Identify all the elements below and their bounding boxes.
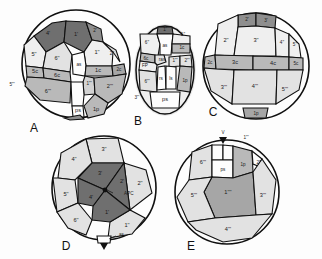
label-b-2triple: 2''': [184, 58, 189, 63]
label-e-v: V: [221, 130, 225, 135]
label-d-2dprime: 2'': [137, 180, 142, 186]
label-b-ras: ras: [159, 57, 166, 62]
label-d-4prime: 4': [89, 194, 93, 200]
label-a-2dprime: 2'': [110, 51, 114, 56]
label-c-3dprime: 3'': [253, 37, 258, 43]
label-b-as: as: [163, 43, 169, 48]
panel-e-letter: E: [187, 239, 195, 253]
label-a-6dprime: 6'': [54, 55, 59, 61]
label-a-2prime: 2': [93, 28, 97, 33]
label-e-1triple: 1''': [243, 135, 248, 140]
label-c-2dprime: 2'': [223, 37, 228, 43]
plate-e-v-right[interactable]: [223, 145, 233, 160]
label-c-5c: 5c: [294, 61, 300, 66]
label-e-6triple: 6''': [200, 159, 206, 165]
label-a-2triple: 2''': [107, 83, 113, 89]
label-c-1p: 1p: [253, 111, 259, 116]
label-a-4prime: 4': [46, 30, 50, 36]
label-e-1quad: 1'''': [224, 189, 231, 195]
apc-dot-d: [103, 188, 108, 193]
label-e-5triple: 5''': [191, 192, 197, 198]
label-c-3prime: 3': [264, 18, 268, 23]
label-d-5dprime: 5'': [63, 191, 68, 197]
panel-b: 1' 6'' as 1'' 1c 6c ras FP 1''' 2''' 6''…: [134, 24, 196, 128]
panel-c-letter: C: [209, 105, 218, 119]
label-e-1p: 1p: [240, 162, 246, 167]
panel-a-letter: A: [30, 121, 38, 135]
label-c-3triple: 3''': [221, 84, 227, 90]
label-a-1p: 1p: [93, 106, 99, 112]
label-a-1triple: 1''': [86, 81, 91, 86]
panel-a: 4' 1' 2' 5'' 6'' 1'' 2'' as 1c 2c 5c 6c …: [9, 10, 139, 135]
label-d-1prime: 1': [105, 209, 109, 215]
plate-e-v-left[interactable]: [212, 145, 223, 160]
plate-a-antapical-strip[interactable]: [71, 82, 84, 106]
label-b-6dprime: 6'': [145, 40, 149, 45]
label-d-4dprime: 4'': [71, 156, 76, 162]
label-d-2prime: 2': [120, 178, 124, 184]
label-a-5dprime: 5'': [31, 51, 36, 57]
label-b-1dprime: 1'': [181, 32, 185, 37]
label-a-6triple: 6''': [45, 88, 51, 94]
panel-b-letter: B: [134, 114, 142, 128]
label-c-4c: 4c: [270, 60, 276, 66]
label-d-1dprime: 1'': [124, 222, 129, 228]
label-b-1c: 1c: [180, 45, 186, 50]
label-b-6triple: 6''': [144, 79, 149, 84]
panel-e: V 1''' 6''' ps 1p 2''' 1'''' 5''' 3''' 4…: [175, 130, 279, 253]
figure-svg: 4' 1' 2' 5'' 6'' 1'' 2'' as 1c 2c 5c 6c …: [0, 0, 322, 259]
label-c-5triple: 5''': [282, 86, 288, 92]
label-a-1prime: 1': [74, 31, 78, 37]
label-a-3triple: 3''': [134, 95, 139, 100]
label-c-4triple: 4''': [252, 83, 258, 89]
label-d-6dprime: 6'': [73, 217, 78, 223]
label-d-3prime: 3': [98, 170, 102, 176]
label-a-2c: 2c: [117, 67, 123, 72]
label-d-apc: APC: [124, 191, 134, 196]
label-a-as: as: [77, 62, 83, 67]
label-b-FP: FP: [142, 63, 148, 68]
label-a-ps: ps: [75, 107, 81, 113]
label-a-1c: 1c: [95, 67, 101, 73]
label-c-2prime: 2': [245, 17, 249, 22]
label-a-5c: 5c: [32, 68, 38, 74]
label-b-6c: 6c: [144, 56, 150, 61]
label-b-ps: ps: [162, 96, 168, 102]
label-b-1p: 1p: [182, 78, 188, 83]
label-d-3dprime: 3'': [101, 146, 106, 152]
label-e-3triple: 3''': [260, 192, 266, 198]
label-b-1triple: 1''': [172, 58, 177, 63]
label-e-ps: ps: [221, 167, 227, 172]
figure-canvas: 4' 1' 2' 5'' 6'' 1'' 2'' as 1c 2c 5c 6c …: [0, 0, 322, 259]
plate-b-6dprime[interactable]: [140, 34, 160, 56]
plate-d-as[interactable]: [97, 236, 111, 243]
panel-c: 2' 3' 2'' 3'' 4'' 5'' 2c 3c 4c 5c 3''' 4…: [203, 13, 309, 119]
label-c-5dprime: 5'': [293, 42, 297, 47]
label-d-as: as: [119, 232, 125, 237]
label-e-4triple: 4''': [225, 226, 231, 232]
label-a-5triple: 5''': [9, 82, 14, 87]
label-e-2triple: 2''': [256, 160, 261, 165]
label-c-3c: 3c: [232, 59, 238, 65]
label-b-1prime: 1': [163, 27, 167, 32]
label-a-1dprime: 1'': [94, 49, 99, 55]
arrow-marker-d: [100, 243, 108, 250]
panel-d-letter: D: [62, 239, 71, 253]
panel-d: 3'' 4'' 5'' 6'' 1'' 2'' 3' 2' 1' 4' APC …: [52, 136, 156, 253]
label-c-2c: 2c: [208, 60, 214, 65]
label-a-6c: 6c: [54, 72, 60, 78]
label-c-4dprime: 4'': [280, 40, 284, 45]
